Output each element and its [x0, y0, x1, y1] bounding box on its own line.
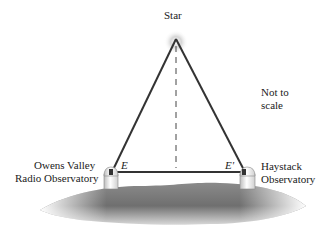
left-observatory-icon — [104, 167, 118, 189]
scale-note-line1: Not to — [261, 86, 289, 98]
line-of-sight-left — [111, 39, 176, 174]
interferometer-diagram — [0, 0, 327, 227]
left-observatory-name-line1: Owens Valley — [34, 159, 95, 171]
right-observatory-name-line2: Observatory — [261, 173, 315, 185]
left-observatory-name-line2: Radio Observatory — [15, 172, 98, 184]
star-label: Star — [164, 9, 182, 21]
right-observatory-name-line1: Haystack — [261, 160, 302, 172]
point-e-label: E — [121, 159, 128, 171]
point-e-prime-label: E' — [225, 159, 234, 171]
scale-note-line2: scale — [261, 99, 283, 111]
earth-surface — [40, 183, 306, 225]
right-observatory-icon — [240, 167, 255, 189]
line-of-sight-right — [176, 39, 246, 174]
